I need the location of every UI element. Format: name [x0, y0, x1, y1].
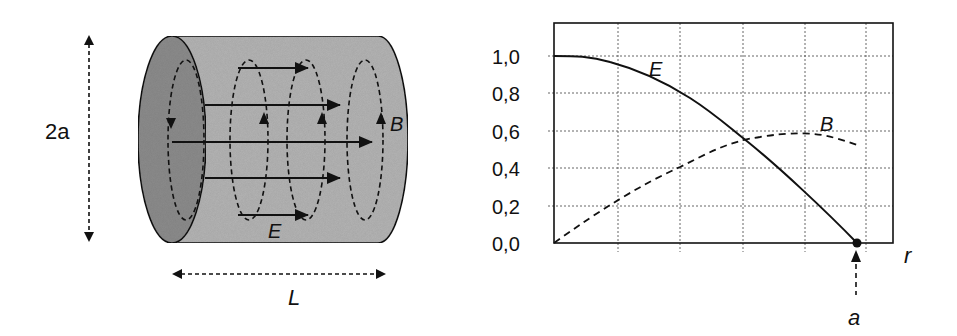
length-label: L: [288, 285, 300, 310]
series-e-line: [554, 56, 857, 243]
chart-grid: [548, 23, 893, 252]
field-profile-chart: 1,0 0,8 0,6 0,4 0,2 0,0 E B a r: [492, 23, 913, 330]
arrowhead-left-icon: [172, 269, 182, 279]
y-axis-ticks: 1,0 0,8 0,6 0,4 0,2 0,0: [492, 46, 520, 255]
magnetic-field-label: B: [390, 113, 403, 135]
series-b-line: [554, 133, 857, 243]
arrowhead-right-icon: [376, 269, 386, 279]
figure-canvas: 2a E B: [0, 0, 957, 336]
diameter-label: 2a: [45, 119, 70, 144]
diameter-dimension: 2a: [45, 35, 94, 242]
radius-a-marker: [853, 239, 862, 248]
cylinder-diagram: 2a E B: [45, 35, 408, 310]
series-e-label: E: [649, 58, 663, 80]
arrowhead-down-icon: [84, 232, 94, 242]
cylinder-end-face: [138, 36, 206, 243]
y-tick-label: 0,0: [492, 233, 520, 255]
y-tick-label: 0,6: [492, 121, 520, 143]
y-tick-label: 1,0: [492, 46, 520, 68]
electric-field-label: E: [268, 220, 282, 242]
y-tick-label: 0,2: [492, 196, 520, 218]
y-tick-label: 0,4: [492, 158, 520, 180]
arrowhead-up-icon: [84, 35, 94, 45]
y-tick-label: 0,8: [492, 83, 520, 105]
arrowhead-up-icon: [851, 250, 861, 262]
series-b-label: B: [820, 113, 833, 135]
x-axis-label: r: [904, 243, 913, 268]
radius-a-label: a: [848, 305, 860, 330]
length-dimension: L: [172, 269, 386, 310]
